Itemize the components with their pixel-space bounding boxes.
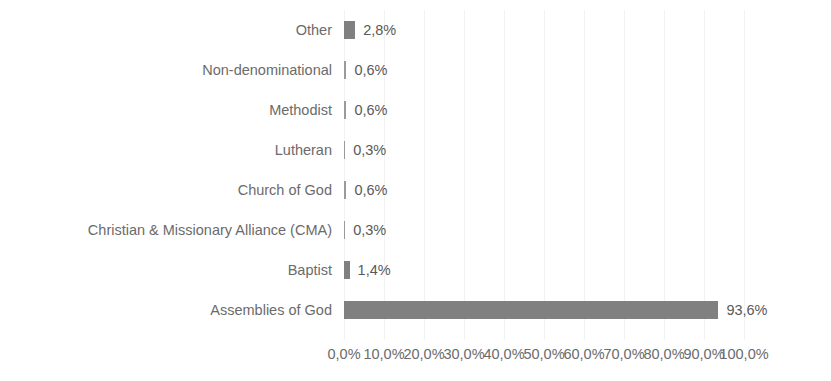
x-tick-label: 30,0% bbox=[443, 346, 484, 362]
bar bbox=[344, 301, 718, 319]
bar-row: Baptist1,4% bbox=[344, 250, 744, 290]
value-label: 93,6% bbox=[726, 302, 767, 318]
bar-row: Lutheran0,3% bbox=[344, 130, 744, 170]
category-label: Baptist bbox=[288, 262, 332, 278]
value-label: 0,3% bbox=[353, 222, 386, 238]
category-label: Other bbox=[296, 22, 332, 38]
category-label: Methodist bbox=[269, 102, 332, 118]
gridline bbox=[744, 10, 745, 340]
bar-row: Christian & Missionary Alliance (CMA)0,3… bbox=[344, 210, 744, 250]
value-label: 1,4% bbox=[358, 262, 391, 278]
x-tick-label: 70,0% bbox=[603, 346, 644, 362]
bar-row: Methodist0,6% bbox=[344, 90, 744, 130]
value-label: 0,3% bbox=[353, 142, 386, 158]
category-label: Christian & Missionary Alliance (CMA) bbox=[88, 222, 332, 238]
x-tick-label: 50,0% bbox=[523, 346, 564, 362]
category-label: Non-denominational bbox=[202, 62, 332, 78]
bar bbox=[344, 181, 346, 199]
category-label: Church of God bbox=[238, 182, 332, 198]
category-label: Lutheran bbox=[275, 142, 332, 158]
value-label: 0,6% bbox=[354, 102, 387, 118]
x-tick-label: 80,0% bbox=[643, 346, 684, 362]
value-label: 0,6% bbox=[354, 182, 387, 198]
x-tick-label: 0,0% bbox=[327, 346, 360, 362]
bar bbox=[344, 141, 345, 159]
bar bbox=[344, 61, 346, 79]
bar bbox=[344, 261, 350, 279]
value-label: 2,8% bbox=[363, 22, 396, 38]
bar-row: Other2,8% bbox=[344, 10, 744, 50]
x-tick-label: 40,0% bbox=[483, 346, 524, 362]
bar-row: Assemblies of God93,6% bbox=[344, 290, 744, 330]
x-tick-label: 20,0% bbox=[403, 346, 444, 362]
bar bbox=[344, 221, 345, 239]
bar-chart: Other2,8%Non-denominational0,6%Methodist… bbox=[0, 0, 831, 381]
bar-row: Non-denominational0,6% bbox=[344, 50, 744, 90]
bar bbox=[344, 101, 346, 119]
plot-area: Other2,8%Non-denominational0,6%Methodist… bbox=[344, 10, 744, 340]
x-axis-tick-labels: 0,0%10,0%20,0%30,0%40,0%50,0%60,0%70,0%8… bbox=[344, 346, 744, 370]
x-tick-label: 10,0% bbox=[363, 346, 404, 362]
x-tick-label: 90,0% bbox=[683, 346, 724, 362]
x-tick-label: 60,0% bbox=[563, 346, 604, 362]
category-label: Assemblies of God bbox=[210, 302, 332, 318]
value-label: 0,6% bbox=[354, 62, 387, 78]
bar-row: Church of God0,6% bbox=[344, 170, 744, 210]
x-tick-label: 100,0% bbox=[719, 346, 768, 362]
bar bbox=[344, 21, 355, 39]
